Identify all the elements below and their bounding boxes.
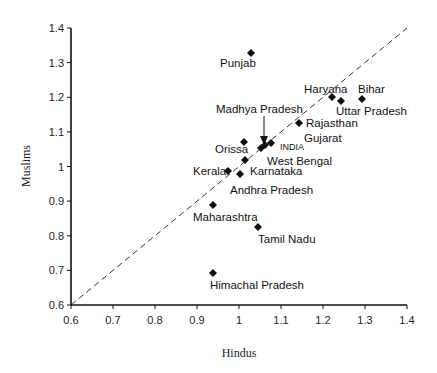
label-karnataka: Karnataka (250, 165, 303, 177)
y-tick-label: 0.6 (49, 299, 64, 311)
point-tamil-nadu (254, 223, 262, 231)
x-tick-label: 0.9 (189, 314, 204, 326)
label-rajasthan: Rajasthan (306, 117, 358, 129)
point-maharashtra (209, 201, 217, 209)
reference-line-y-equals-x (71, 28, 407, 305)
label-haryana: Haryana (304, 83, 348, 95)
label-madhya-pradesh: Madhya Pradesh (216, 103, 303, 115)
y-axis-title: Muslims (19, 145, 33, 187)
x-tick-label: 1.2 (315, 314, 330, 326)
y-tick-label: 1.1 (49, 126, 64, 138)
label-orissa: Orissa (215, 143, 249, 155)
x-tick-label: 1 (236, 314, 242, 326)
scatter-chart: 0.6 0.7 0.8 0.9 1 1.1 1.2 1.3 1.4 0.6 0.… (0, 0, 437, 373)
point-west-bengal (267, 139, 275, 147)
x-tick-label: 0.7 (105, 314, 120, 326)
x-axis-title: Hindus (222, 346, 257, 360)
point-uttar-pradesh (337, 97, 345, 105)
point-punjab (247, 49, 255, 57)
y-tick-label: 1.2 (49, 91, 64, 103)
y-tick-label: 0.7 (49, 264, 64, 276)
point-karnataka (241, 156, 249, 164)
y-tick-label: 1 (58, 161, 64, 173)
label-bihar: Bihar (358, 83, 385, 95)
label-andhra-pradesh: Andhra Pradesh (230, 184, 313, 196)
label-kerala: Kerala (193, 165, 227, 177)
x-tick-label: 0.6 (63, 314, 78, 326)
y-tick-label: 1.3 (49, 57, 64, 69)
label-india: INDIA (280, 142, 304, 152)
point-rajasthan (295, 119, 303, 127)
label-punjab: Punjab (220, 57, 256, 69)
point-bihar (358, 95, 366, 103)
label-himachal-pradesh: Himachal Pradesh (210, 279, 304, 291)
label-gujarat: Gujarat (304, 132, 343, 144)
y-tick-label: 0.9 (49, 195, 64, 207)
x-tick-label: 1.4 (399, 314, 414, 326)
y-tick-label: 0.8 (49, 230, 64, 242)
x-axis-ticks: 0.6 0.7 0.8 0.9 1 1.1 1.2 1.3 1.4 (63, 305, 414, 326)
x-tick-label: 1.1 (273, 314, 288, 326)
y-tick-label: 1.4 (49, 22, 64, 34)
x-tick-label: 1.3 (357, 314, 372, 326)
x-tick-label: 0.8 (147, 314, 162, 326)
label-maharashtra: Maharashtra (193, 211, 258, 223)
point-himachal-pradesh (209, 269, 217, 277)
y-axis-ticks: 0.6 0.7 0.8 0.9 1 1.1 1.2 1.3 1.4 (49, 22, 71, 311)
point-andhra-pradesh (236, 170, 244, 178)
label-tamil-nadu: Tamil Nadu (258, 233, 316, 245)
label-uttar-pradesh: Uttar Pradesh (336, 105, 407, 117)
